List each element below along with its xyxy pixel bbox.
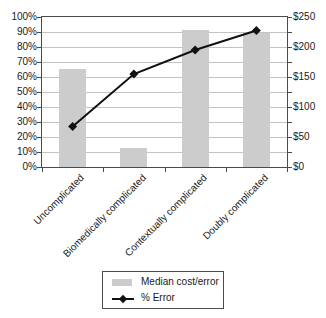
y-left-tick-mark	[37, 167, 41, 168]
legend-label-pct-error: % Error	[141, 292, 175, 304]
legend-label-median-cost: Median cost/error	[141, 276, 219, 288]
y-right-tick-label: $200	[293, 41, 326, 53]
diamond-marker-icon	[191, 46, 200, 55]
y-left-tick-label: 60%	[0, 71, 37, 83]
y-right-tick-label: $250	[293, 11, 326, 23]
y-right-tick-mark	[288, 62, 292, 63]
y-left-tick-mark	[37, 17, 41, 18]
chart-figure: Median cost/error % Error 100%90%80%70%6…	[0, 0, 326, 318]
y-left-tick-mark	[37, 62, 41, 63]
diamond-marker-icon	[252, 26, 261, 35]
pct-error-line	[73, 31, 257, 127]
y-right-tick-mark	[288, 47, 292, 48]
legend: Median cost/error % Error	[102, 271, 224, 309]
x-tick-mark	[42, 168, 43, 172]
y-left-tick-mark	[37, 32, 41, 33]
x-category-label: Doubly complicated	[201, 172, 270, 241]
y-left-tick-mark	[37, 47, 41, 48]
y-left-tick-label: 50%	[0, 86, 37, 98]
y-left-tick-mark	[37, 137, 41, 138]
line-diamond-swatch-icon	[112, 294, 134, 303]
legend-item-pct-error: % Error	[112, 292, 223, 304]
y-left-tick-label: 100%	[0, 11, 37, 23]
y-right-tick-mark	[288, 17, 292, 18]
y-right-tick-label: $100	[293, 101, 326, 113]
pct-error-line-layer	[42, 17, 287, 167]
y-right-tick-mark	[288, 152, 292, 153]
y-right-tick-label: $50	[293, 131, 326, 143]
y-right-tick-label: $0	[293, 161, 326, 173]
legend-item-median-cost: Median cost/error	[112, 276, 223, 288]
y-left-tick-label: 90%	[0, 26, 37, 38]
y-left-tick-mark	[37, 107, 41, 108]
x-tick-mark	[226, 168, 227, 172]
y-left-tick-label: 10%	[0, 146, 37, 158]
x-tick-mark	[103, 168, 104, 172]
y-left-tick-label: 40%	[0, 101, 37, 113]
y-left-tick-mark	[37, 92, 41, 93]
y-left-tick-label: 80%	[0, 41, 37, 53]
y-left-tick-label: 30%	[0, 116, 37, 128]
y-right-tick-mark	[288, 122, 292, 123]
y-right-tick-mark	[288, 107, 292, 108]
y-left-tick-label: 70%	[0, 56, 37, 68]
y-left-tick-mark	[37, 122, 41, 123]
y-left-tick-label: 0%	[0, 161, 37, 173]
bar-swatch-icon	[112, 279, 132, 286]
y-left-tick-label: 20%	[0, 131, 37, 143]
y-left-tick-mark	[37, 152, 41, 153]
y-right-tick-mark	[288, 77, 292, 78]
x-category-label: Uncomplicated	[32, 172, 87, 227]
x-tick-mark	[165, 168, 166, 172]
y-right-tick-label: $150	[293, 71, 326, 83]
y-right-tick-mark	[288, 167, 292, 168]
diamond-marker-icon	[119, 294, 127, 302]
y-right-tick-mark	[288, 137, 292, 138]
y-left-tick-mark	[37, 77, 41, 78]
x-tick-mark	[287, 168, 288, 172]
y-right-tick-mark	[288, 32, 292, 33]
y-right-tick-mark	[288, 92, 292, 93]
plot-area	[41, 16, 288, 168]
